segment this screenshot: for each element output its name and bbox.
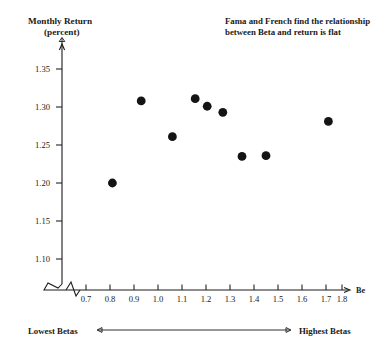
y-axis-title-line1: Monthly Return bbox=[28, 16, 92, 26]
data-point bbox=[191, 94, 200, 103]
x-tick-label: 0.8 bbox=[105, 294, 116, 304]
y-tick-label: 1.35 bbox=[35, 64, 50, 74]
annotation-line-2: between Beta and return is flat bbox=[225, 27, 341, 37]
data-point bbox=[168, 132, 177, 141]
annotation-line-1: Fama and French find the relationship bbox=[225, 16, 370, 26]
y-axis-tick-labels: 1.10 1.15 1.20 1.25 1.30 1.35 bbox=[35, 64, 50, 264]
x-tick-label: 1.6 bbox=[297, 294, 308, 304]
beta-range-arrow bbox=[97, 328, 291, 333]
x-tick-label: 0.7 bbox=[81, 294, 92, 304]
x-tick-label: 1.1 bbox=[177, 294, 188, 304]
y-axis-ticks bbox=[56, 69, 62, 259]
highest-betas-label: Highest Betas bbox=[299, 326, 351, 336]
x-axis-ticks bbox=[86, 285, 342, 291]
data-point bbox=[203, 102, 212, 111]
x-tick-label: 1.2 bbox=[201, 294, 212, 304]
data-points-layer bbox=[108, 94, 333, 187]
x-axis-label: Be bbox=[356, 286, 365, 295]
scatter-plot-canvas: Monthly Return (percent) Fama and French… bbox=[0, 0, 388, 351]
y-tick-label: 1.20 bbox=[35, 178, 50, 188]
data-point bbox=[238, 152, 247, 161]
x-tick-label: 1.7 bbox=[321, 294, 332, 304]
data-point bbox=[137, 97, 146, 106]
x-tick-label: 0.9 bbox=[129, 294, 140, 304]
y-axis-title-line2: (percent) bbox=[44, 27, 80, 37]
lowest-betas-label: Lowest Betas bbox=[28, 326, 78, 336]
y-tick-label: 1.15 bbox=[35, 216, 50, 226]
y-axis-break-symbol bbox=[44, 283, 62, 290]
y-tick-label: 1.30 bbox=[35, 102, 50, 112]
y-tick-label: 1.25 bbox=[35, 140, 50, 150]
x-axis-break-symbol bbox=[66, 282, 80, 296]
x-tick-label: 1.8 bbox=[337, 294, 348, 304]
data-point bbox=[262, 151, 271, 160]
x-tick-label: 1.4 bbox=[249, 294, 260, 304]
x-axis-tick-labels: 0.7 0.8 0.9 1.0 1.1 1.2 1.3 1.4 1.5 1.6 … bbox=[81, 294, 348, 304]
chart-figure: Monthly Return (percent) Fama and French… bbox=[0, 0, 388, 351]
y-tick-label: 1.10 bbox=[35, 254, 50, 264]
x-tick-label: 1.3 bbox=[225, 294, 236, 304]
x-tick-label: 1.5 bbox=[273, 294, 284, 304]
data-point bbox=[108, 179, 117, 188]
data-point bbox=[218, 108, 227, 117]
data-point bbox=[324, 117, 333, 126]
x-tick-label: 1.0 bbox=[153, 294, 164, 304]
